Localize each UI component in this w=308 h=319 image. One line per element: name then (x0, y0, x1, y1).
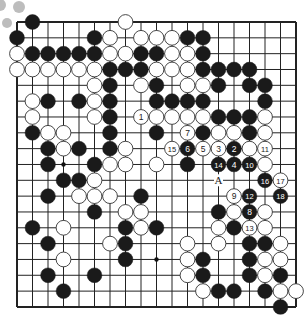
white-stone[interactable] (258, 110, 273, 125)
black-stone[interactable] (103, 141, 118, 156)
white-stone[interactable] (149, 157, 164, 172)
white-stone[interactable] (134, 30, 149, 45)
black-stone[interactable] (196, 94, 211, 109)
white-stone[interactable] (227, 125, 242, 140)
white-stone[interactable] (180, 46, 195, 61)
black-stone[interactable] (103, 94, 118, 109)
black-stone[interactable] (72, 173, 87, 188)
black-stone[interactable] (87, 268, 102, 283)
black-stone[interactable] (87, 30, 102, 45)
white-stone[interactable] (103, 236, 118, 251)
white-stone[interactable] (56, 141, 71, 156)
black-stone[interactable] (242, 125, 257, 140)
white-stone[interactable] (211, 125, 226, 140)
white-stone[interactable] (165, 30, 180, 45)
white-stone[interactable] (134, 78, 149, 93)
white-stone[interactable] (227, 205, 242, 220)
black-stone[interactable] (149, 220, 164, 235)
white-stone[interactable] (165, 46, 180, 61)
black-stone[interactable] (41, 157, 56, 172)
black-stone[interactable] (196, 46, 211, 61)
black-stone[interactable] (227, 62, 242, 77)
white-stone[interactable] (103, 157, 118, 172)
white-stone[interactable] (10, 62, 25, 77)
white-stone[interactable] (289, 284, 304, 299)
black-stone[interactable] (25, 46, 40, 61)
white-stone[interactable] (87, 110, 102, 125)
white-stone[interactable] (258, 252, 273, 267)
white-stone[interactable] (258, 268, 273, 283)
black-stone[interactable] (211, 205, 226, 220)
white-stone[interactable] (56, 62, 71, 77)
white-stone[interactable] (118, 15, 133, 30)
black-stone[interactable] (180, 94, 195, 109)
black-stone[interactable] (10, 30, 25, 45)
white-stone[interactable] (118, 205, 133, 220)
white-stone[interactable] (273, 284, 288, 299)
black-stone[interactable] (56, 284, 71, 299)
white-stone[interactable] (56, 252, 71, 267)
white-stone[interactable] (25, 110, 40, 125)
black-stone[interactable] (103, 78, 118, 93)
black-stone[interactable] (211, 62, 226, 77)
black-stone[interactable] (165, 94, 180, 109)
black-stone[interactable] (118, 252, 133, 267)
white-stone[interactable] (10, 46, 25, 61)
black-stone[interactable] (227, 110, 242, 125)
white-stone[interactable] (103, 30, 118, 45)
white-stone[interactable] (196, 110, 211, 125)
white-stone[interactable] (41, 62, 56, 77)
black-stone[interactable] (87, 157, 102, 172)
black-stone[interactable] (41, 46, 56, 61)
white-stone[interactable] (103, 189, 118, 204)
white-stone[interactable] (118, 46, 133, 61)
black-stone[interactable] (41, 141, 56, 156)
white-stone[interactable] (87, 173, 102, 188)
black-stone[interactable] (56, 46, 71, 61)
white-stone[interactable] (41, 125, 56, 140)
white-stone[interactable] (180, 252, 195, 267)
white-stone[interactable] (25, 62, 40, 77)
black-stone[interactable] (72, 141, 87, 156)
black-stone[interactable] (118, 236, 133, 251)
white-stone[interactable] (134, 220, 149, 235)
white-stone[interactable] (72, 62, 87, 77)
white-stone[interactable] (211, 236, 226, 251)
white-stone[interactable] (180, 62, 195, 77)
black-stone[interactable] (273, 268, 288, 283)
black-stone[interactable] (196, 30, 211, 45)
white-stone[interactable] (149, 62, 164, 77)
black-stone[interactable] (103, 125, 118, 140)
black-stone[interactable] (149, 78, 164, 93)
white-stone[interactable] (258, 220, 273, 235)
black-stone[interactable] (211, 78, 226, 93)
black-stone[interactable] (242, 236, 257, 251)
white-stone[interactable] (118, 157, 133, 172)
black-stone[interactable] (41, 236, 56, 251)
black-stone[interactable] (258, 236, 273, 251)
white-stone[interactable] (180, 268, 195, 283)
white-stone[interactable] (273, 252, 288, 267)
white-stone[interactable] (103, 46, 118, 61)
white-stone[interactable] (211, 220, 226, 235)
white-stone[interactable] (87, 62, 102, 77)
white-stone[interactable] (242, 141, 257, 156)
black-stone[interactable] (242, 252, 257, 267)
black-stone[interactable] (118, 220, 133, 235)
white-stone[interactable] (180, 236, 195, 251)
white-stone[interactable] (56, 220, 71, 235)
black-stone[interactable] (211, 284, 226, 299)
black-stone[interactable] (103, 110, 118, 125)
black-stone[interactable] (258, 284, 273, 299)
white-stone[interactable] (149, 110, 164, 125)
black-stone[interactable] (149, 46, 164, 61)
white-stone[interactable] (258, 125, 273, 140)
black-stone[interactable] (41, 189, 56, 204)
black-stone[interactable] (118, 62, 133, 77)
black-stone[interactable] (196, 125, 211, 140)
white-stone[interactable] (165, 110, 180, 125)
white-stone[interactable] (273, 236, 288, 251)
black-stone[interactable] (180, 30, 195, 45)
white-stone[interactable] (72, 189, 87, 204)
black-stone[interactable] (180, 157, 195, 172)
